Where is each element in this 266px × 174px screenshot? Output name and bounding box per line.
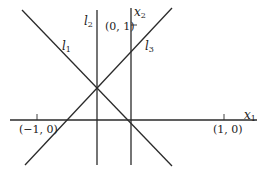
lines-diagram: l1 l2 l3 x2 x1 (0, 1) (−1, 0) (1, 0): [0, 0, 266, 174]
label-point-x2-one: (0, 1): [105, 21, 135, 32]
label-x1-axis: x1: [244, 109, 256, 123]
label-point-pos-one: (1, 0): [213, 124, 243, 135]
label-l3: l3: [145, 40, 154, 54]
label-l2: l2: [84, 15, 93, 29]
label-l1: l1: [62, 40, 71, 54]
label-x2-axis: x2: [134, 6, 146, 20]
label-point-neg-one: (−1, 0): [19, 124, 58, 135]
line-l3: [25, 8, 172, 165]
